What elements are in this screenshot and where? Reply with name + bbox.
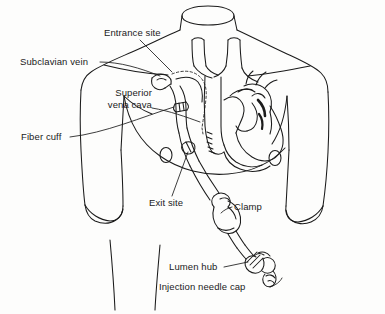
clavicle-right <box>104 65 168 75</box>
pulmonary-artery <box>236 100 265 131</box>
leader-lumen-hub <box>224 262 248 267</box>
heart <box>224 97 283 171</box>
leader-clamp <box>221 207 232 213</box>
clavicle-left <box>248 66 310 76</box>
label-injection-needle-cap: Injection needle cap <box>159 281 246 293</box>
label-superior-vena-cava-line2: vena cava <box>98 99 152 111</box>
label-exit-site: Exit site <box>149 197 183 209</box>
catheter-tip <box>202 128 203 134</box>
neck <box>180 6 237 30</box>
brachiocephalic-veins <box>192 38 258 82</box>
leader-lines <box>70 40 282 287</box>
label-entrance-site: Entrance site <box>104 27 161 39</box>
label-superior-vena-cava: Superior vena cava <box>98 87 152 110</box>
lumen-hub <box>245 252 275 273</box>
leader-exit-site <box>172 152 188 196</box>
label-lumen-hub: Lumen hub <box>169 261 217 273</box>
label-fiber-cuff: Fiber cuff <box>21 131 61 143</box>
catheter-diagram-figure: Entrance site Subclavian vein Superior v… <box>0 0 385 314</box>
catheter-entrance <box>152 74 172 90</box>
left-arm <box>237 30 329 224</box>
leader-entrance-site <box>140 40 172 72</box>
right-arm <box>80 30 180 223</box>
label-clamp: Clamp <box>234 201 262 213</box>
label-subclavian-vein: Subclavian vein <box>20 56 88 68</box>
label-superior-vena-cava-line1: Superior <box>98 87 152 99</box>
superior-vena-cava <box>204 76 224 154</box>
